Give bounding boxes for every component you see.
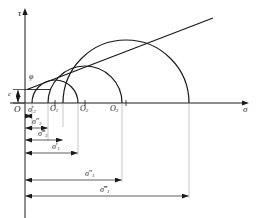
s3t-sub: 3 xyxy=(45,133,47,138)
dimension-label-sigma1-dprime: σ″1 xyxy=(85,170,94,179)
dimension-label-sigma1-prime: σ′1 xyxy=(52,143,60,152)
mohr-circle-1 xyxy=(32,80,78,103)
failure-envelope-line xyxy=(27,18,213,90)
axis-sigma xyxy=(10,100,249,105)
dimension-label-sigma3-tprime: σ‴3 xyxy=(38,130,47,139)
axis-label-sigma: σ xyxy=(243,105,247,114)
s1d-sub: 1 xyxy=(92,173,94,178)
mohr-circle-2 xyxy=(48,66,122,103)
center-o1-sub: 1 xyxy=(56,108,58,113)
dimension-lines xyxy=(26,116,189,196)
phi-angle-label: φ xyxy=(29,73,33,81)
center-o3-sub: 3 xyxy=(116,108,118,113)
s3p-sub: 3 xyxy=(33,109,35,114)
dimension-label-sigma3-dprime: σ″3 xyxy=(32,118,41,127)
diagram-canvas xyxy=(0,0,261,218)
mohr-coulomb-diagram: τ σ O φ c O1 O2 O3 σ′3 σ″3 σ‴3 σ′1 σ″1 σ… xyxy=(0,0,261,218)
cohesion-label: c xyxy=(8,91,11,98)
dimension-label-sigma1-tprime: σ‴1 xyxy=(100,186,109,195)
s1p-sub: 1 xyxy=(57,146,59,151)
center-o2-sub: 2 xyxy=(86,108,88,113)
origin-label: O xyxy=(14,105,21,114)
axis-label-tau: τ xyxy=(18,9,21,18)
mohr-circle-3 xyxy=(63,40,189,103)
dimension-label-sigma3-prime: σ′3 xyxy=(28,106,36,115)
center-label-o2: O2 xyxy=(80,105,88,114)
center-label-o1: O1 xyxy=(50,105,58,114)
s3d-sub: 3 xyxy=(39,121,41,126)
s1t-sub: 1 xyxy=(107,189,109,194)
center-label-o3: O3 xyxy=(110,105,118,114)
